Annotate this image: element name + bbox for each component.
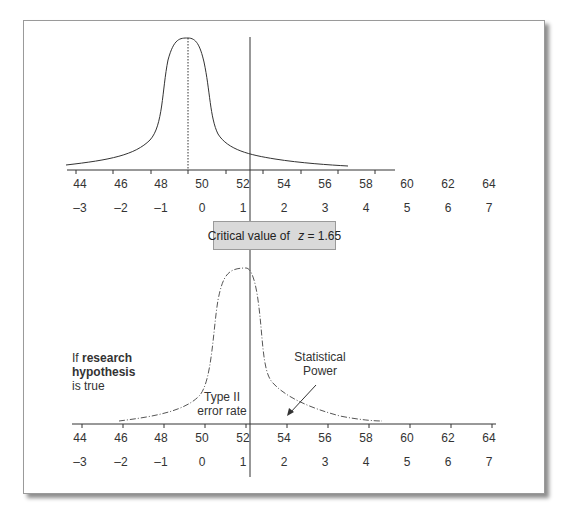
bottom-z-tick: 7 bbox=[486, 455, 493, 469]
top-z-tick: 5 bbox=[404, 201, 411, 215]
bottom-raw-tick: 62 bbox=[441, 431, 454, 445]
top-raw-tick: 44 bbox=[73, 177, 86, 191]
bottom-z-tick: –1 bbox=[154, 455, 167, 469]
power-line2: Power bbox=[303, 364, 337, 378]
bottom-z-tick: 6 bbox=[445, 455, 452, 469]
top-raw-tick: 64 bbox=[482, 177, 495, 191]
type2-line1: Type II bbox=[204, 390, 240, 404]
hyp-bold-hypothesis: hypothesis bbox=[72, 365, 135, 379]
top-raw-tick: 58 bbox=[359, 177, 372, 191]
bottom-raw-tick: 64 bbox=[482, 431, 495, 445]
top-raw-tick: 48 bbox=[154, 177, 167, 191]
critical-value-box: Critical value of z = 1.65 bbox=[213, 221, 336, 250]
bottom-z-tick: 5 bbox=[404, 455, 411, 469]
top-z-tick: 0 bbox=[199, 201, 206, 215]
top-z-tick: –2 bbox=[114, 201, 127, 215]
top-raw-tick: 56 bbox=[318, 177, 331, 191]
null-distribution-curve bbox=[66, 38, 348, 166]
bottom-raw-tick: 50 bbox=[195, 431, 208, 445]
top-z-tick: –1 bbox=[154, 201, 167, 215]
top-z-tick: 3 bbox=[322, 201, 329, 215]
bottom-raw-tick: 60 bbox=[400, 431, 413, 445]
type2-line2: error rate bbox=[197, 404, 246, 418]
top-raw-tick: 62 bbox=[441, 177, 454, 191]
top-axis-ticks bbox=[76, 170, 375, 174]
hyp-bold-research: research bbox=[82, 351, 132, 365]
top-raw-tick: 52 bbox=[236, 177, 249, 191]
top-z-tick: –3 bbox=[73, 201, 86, 215]
bottom-raw-tick: 58 bbox=[359, 431, 372, 445]
hyp-tail-text: is true bbox=[72, 379, 105, 393]
power-line1: Statistical bbox=[294, 350, 345, 364]
top-raw-tick: 54 bbox=[277, 177, 290, 191]
bottom-raw-tick: 46 bbox=[114, 431, 127, 445]
critical-value-suffix: = 1.65 bbox=[304, 229, 341, 243]
top-z-tick: 1 bbox=[240, 201, 247, 215]
top-raw-tick: 50 bbox=[195, 177, 208, 191]
bottom-z-tick: 0 bbox=[199, 455, 206, 469]
top-z-tick: 2 bbox=[281, 201, 288, 215]
top-z-tick: 6 bbox=[445, 201, 452, 215]
top-raw-tick: 46 bbox=[114, 177, 127, 191]
bottom-z-tick: 2 bbox=[281, 455, 288, 469]
type-ii-error-label: Type II error rate bbox=[187, 390, 257, 418]
bottom-z-tick: –3 bbox=[73, 455, 86, 469]
bottom-z-tick: 3 bbox=[322, 455, 329, 469]
bottom-raw-tick: 48 bbox=[154, 431, 167, 445]
bottom-z-tick: 4 bbox=[363, 455, 370, 469]
top-z-tick: 4 bbox=[363, 201, 370, 215]
bottom-raw-tick: 54 bbox=[277, 431, 290, 445]
bottom-raw-tick: 44 bbox=[73, 431, 86, 445]
hyp-if-text: If bbox=[72, 351, 82, 365]
top-z-tick: 7 bbox=[486, 201, 493, 215]
bottom-z-tick: –2 bbox=[114, 455, 127, 469]
research-hypothesis-label: If research hypothesis is true bbox=[72, 351, 135, 393]
critical-value-prefix: Critical value of bbox=[208, 229, 293, 243]
bottom-raw-tick: 56 bbox=[318, 431, 331, 445]
bottom-axis-ticks bbox=[82, 424, 492, 428]
bottom-z-tick: 1 bbox=[240, 455, 247, 469]
bottom-raw-tick: 52 bbox=[236, 431, 249, 445]
top-raw-tick: 60 bbox=[400, 177, 413, 191]
statistical-power-label: Statistical Power bbox=[280, 350, 360, 378]
